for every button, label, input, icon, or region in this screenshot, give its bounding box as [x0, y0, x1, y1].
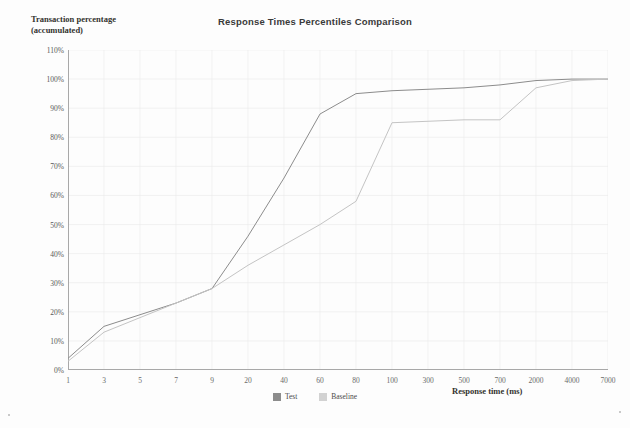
y-axis-tick-labels: 0%10%20%30%40%50%60%70%80%90%100%110%	[28, 50, 64, 370]
x-axis-tick-label: 40	[280, 376, 288, 385]
y-axis-tick-label: 90%	[50, 104, 64, 113]
plot-svg	[68, 50, 608, 370]
y-axis-tick-label: 110%	[47, 46, 64, 55]
y-axis-tick-label: 70%	[50, 162, 64, 171]
artifact-dot-left	[8, 414, 10, 416]
legend-swatch-icon	[273, 393, 281, 401]
x-axis-tick-label: 5	[138, 376, 142, 385]
chart-legend: TestBaseline	[0, 392, 630, 401]
x-axis-tick-label: 60	[316, 376, 324, 385]
x-axis-tick-label: 7000	[601, 376, 616, 385]
x-axis-tick-label: 4000	[565, 376, 580, 385]
y-axis-title: Transaction percentage (accumulated)	[31, 14, 116, 36]
legend-item[interactable]: Baseline	[319, 392, 357, 401]
y-axis-tick-label: 60%	[50, 191, 64, 200]
x-axis-tick-label: 300	[422, 376, 433, 385]
series-line-test	[68, 79, 608, 358]
x-axis-tick-label: 1	[66, 376, 70, 385]
y-axis-tick-label: 40%	[50, 249, 64, 258]
x-axis-tick-label: 2000	[529, 376, 544, 385]
x-axis-tick-label: 20	[244, 376, 252, 385]
x-axis-tick-label: 700	[494, 376, 505, 385]
legend-label: Baseline	[331, 392, 357, 401]
artifact-dot-right	[619, 411, 621, 413]
y-axis-tick-label: 50%	[50, 220, 64, 229]
x-axis-tick-label: 500	[458, 376, 469, 385]
y-axis-title-line1: Transaction percentage	[31, 14, 116, 25]
y-axis-tick-label: 30%	[50, 278, 64, 287]
x-axis-tick-label: 80	[352, 376, 360, 385]
legend-item[interactable]: Test	[273, 392, 297, 401]
chart-container: Response Times Percentiles Comparison Tr…	[0, 0, 630, 428]
series-line-baseline	[68, 79, 608, 361]
legend-label: Test	[285, 392, 297, 401]
legend-swatch-icon	[319, 393, 327, 401]
x-axis-tick-labels: 1357920406080100300500700200040007000	[68, 376, 608, 388]
y-axis-title-line2: (accumulated)	[31, 25, 116, 36]
grid-lines	[68, 50, 608, 370]
x-axis-tick-label: 100	[386, 376, 397, 385]
y-axis-tick-label: 80%	[50, 133, 64, 142]
plot-area	[68, 50, 608, 370]
x-axis-tick-label: 3	[102, 376, 106, 385]
y-axis-tick-label: 10%	[50, 336, 64, 345]
x-axis-tick-label: 7	[174, 376, 178, 385]
y-axis-tick-label: 20%	[50, 307, 64, 316]
y-axis-tick-label: 100%	[47, 75, 65, 84]
x-axis-tick-label: 9	[210, 376, 214, 385]
y-axis-tick-label: 0%	[54, 366, 64, 375]
